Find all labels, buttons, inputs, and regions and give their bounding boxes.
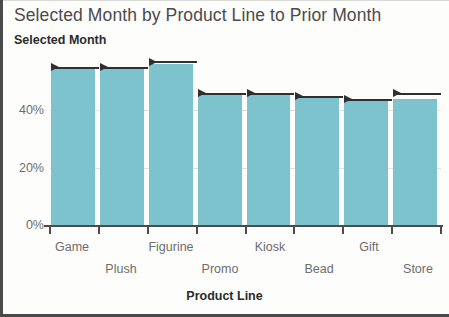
reference-line — [103, 67, 148, 69]
reference-line — [396, 93, 441, 95]
x-axis-tick — [196, 227, 198, 234]
x-axis-tick-label: Bead — [274, 262, 364, 276]
reference-line — [347, 99, 392, 101]
x-axis-tick — [342, 227, 344, 234]
reference-line — [54, 67, 99, 69]
reference-marker-icon — [149, 58, 157, 66]
x-axis-tick — [98, 227, 100, 234]
bar[interactable] — [198, 93, 242, 225]
y-axis-tick-label: 0% — [26, 218, 44, 232]
reference-marker-icon — [198, 89, 206, 97]
x-axis-tick-label: Figurine — [126, 240, 216, 254]
frame-top-border — [0, 0, 449, 1]
reference-marker-icon — [344, 95, 352, 103]
reference-line — [201, 93, 246, 95]
x-axis-tick-label: Game — [27, 240, 117, 254]
bar[interactable] — [295, 96, 339, 225]
y-axis-tick-label: 20% — [19, 161, 44, 175]
x-axis-tick — [49, 227, 51, 234]
x-axis-title: Product Line — [0, 289, 449, 303]
x-axis-tick — [245, 227, 247, 234]
x-axis-tick-label: Gift — [324, 240, 414, 254]
bar[interactable] — [149, 64, 193, 225]
x-axis-tick — [440, 227, 442, 234]
reference-marker-icon — [247, 89, 255, 97]
x-axis-tick — [391, 227, 393, 234]
x-axis-tick-label: Store — [373, 262, 449, 276]
bar[interactable] — [100, 67, 144, 225]
reference-marker-icon — [295, 92, 303, 100]
x-axis-tick-label: Promo — [175, 262, 265, 276]
reference-marker-icon — [393, 89, 401, 97]
y-axis-tick-label: 40% — [19, 103, 44, 117]
x-axis-tick — [293, 227, 295, 234]
bar[interactable] — [247, 93, 291, 225]
chart-container: Selected Month by Product Line to Prior … — [0, 0, 449, 317]
reference-marker-icon — [100, 63, 108, 71]
bar[interactable] — [393, 99, 437, 226]
x-axis-tick-label: Plush — [76, 262, 166, 276]
bar[interactable] — [51, 67, 95, 225]
reference-marker-icon — [51, 63, 59, 71]
x-axis-tick — [147, 227, 149, 234]
x-axis-line — [44, 225, 443, 227]
x-axis-tick-label: Kiosk — [225, 240, 315, 254]
chart-title: Selected Month by Product Line to Prior … — [14, 5, 381, 26]
bar[interactable] — [344, 99, 388, 226]
reference-line — [298, 96, 343, 98]
reference-line — [250, 93, 295, 95]
plot-area — [50, 55, 441, 225]
y-axis-labels: 40%20%0% — [0, 0, 44, 317]
reference-line — [152, 61, 197, 63]
